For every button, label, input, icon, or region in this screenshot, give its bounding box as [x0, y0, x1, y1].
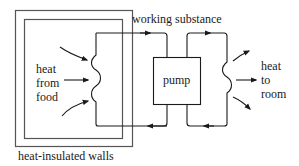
heat-in-arrow-top	[60, 47, 87, 60]
heat-from-food-line-1: heat	[36, 63, 59, 76]
heat-from-food-label: heat from food	[36, 63, 59, 104]
heat-out-arrow-bottom	[233, 97, 250, 109]
cold-coil	[92, 33, 151, 126]
heat-to-room-line-3: room	[261, 88, 286, 101]
working-substance-label: working substance	[132, 13, 222, 26]
pipe-top-right	[187, 33, 210, 57]
heat-from-food-line-3: food	[36, 91, 59, 104]
pump-label: pump	[163, 74, 190, 87]
heat-insulated-walls-label: heat-insulated walls	[18, 150, 114, 163]
heat-in-arrow-bottom	[62, 101, 88, 116]
heat-out-arrow-top	[233, 51, 249, 61]
heat-to-room-line-1: heat	[261, 60, 286, 73]
heat-to-room-line-2: to	[261, 74, 286, 87]
pipe-bottom-left	[150, 104, 167, 126]
heat-to-room-label: heat to room	[261, 60, 286, 101]
heat-from-food-line-2: from	[36, 77, 59, 90]
